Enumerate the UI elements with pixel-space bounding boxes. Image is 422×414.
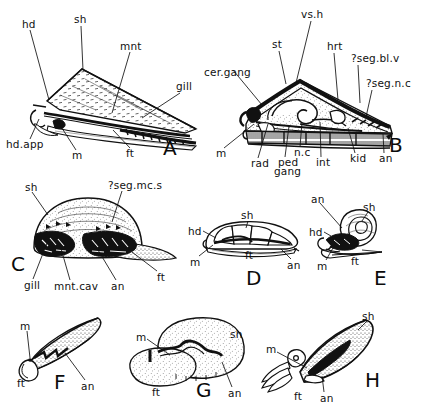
- label-d-m: m: [190, 257, 200, 268]
- label-e-m: m: [317, 261, 327, 272]
- panel-b-drawing: [240, 80, 393, 148]
- label-d-ft: ft: [245, 250, 253, 261]
- panel-letter-g: G: [196, 378, 212, 402]
- label-f-an: an: [81, 381, 95, 392]
- label-b-hrt: hrt: [327, 41, 343, 52]
- label-a-mnt: mnt: [120, 41, 142, 52]
- label-c-gill: gill: [24, 280, 40, 291]
- label-c-an: an: [111, 281, 125, 292]
- panel-g-drawing: [130, 318, 244, 386]
- label-d-hd: hd: [188, 226, 202, 237]
- label-c-sh: sh: [25, 182, 38, 193]
- label-b-seg-n-c: ?seg.n.c: [366, 78, 411, 89]
- label-b-seg-bl-v: ?seg.bl.v: [351, 53, 399, 64]
- label-d-sh: sh: [241, 210, 254, 221]
- figure-plate: hd sh mnt gill hd.app m ft A vs.h st hrt…: [0, 0, 422, 414]
- label-d-an: an: [287, 260, 301, 271]
- label-a-m: m: [72, 150, 82, 161]
- panel-letter-b: B: [389, 133, 403, 157]
- label-f-ft: ft: [17, 378, 25, 389]
- label-h-sh: sh: [362, 311, 375, 322]
- label-b-kid: kid: [350, 153, 366, 164]
- label-e-ft: ft: [351, 256, 359, 267]
- label-c-ft: ft: [157, 272, 165, 283]
- label-h-m: m: [266, 344, 276, 355]
- panel-c-drawing: [34, 198, 176, 260]
- label-g-ft: ft: [152, 387, 160, 398]
- label-a-hd: hd: [22, 19, 36, 30]
- panel-e-drawing: [318, 210, 382, 258]
- label-b-int: int: [316, 157, 330, 168]
- label-c-mnt-cav: mnt.cav: [54, 281, 98, 292]
- label-f-m: m: [20, 321, 30, 332]
- label-a-sh: sh: [74, 14, 87, 25]
- label-e-an: an: [311, 194, 325, 205]
- label-b-gang: gang: [274, 166, 301, 177]
- label-b-rad: rad: [251, 158, 269, 169]
- panel-letter-h: H: [365, 368, 380, 392]
- label-a-hd-app: hd.app: [6, 139, 44, 150]
- panel-h-drawing: [262, 320, 373, 392]
- label-h-ft: ft: [294, 391, 302, 402]
- label-a-gill: gill: [176, 81, 192, 92]
- label-h-an: an: [320, 393, 334, 404]
- panel-letter-f: F: [54, 370, 66, 394]
- panel-letter-d: D: [246, 266, 261, 290]
- label-b-m: m: [216, 148, 226, 159]
- label-e-hd: hd: [309, 227, 323, 238]
- label-b-vs-h: vs.h: [301, 9, 323, 20]
- label-c-seg-mc-s: ?seg.mc.s: [108, 180, 162, 191]
- label-b-n-c: n.c: [294, 147, 310, 158]
- label-b-st: st: [272, 39, 282, 50]
- label-g-sh: sh: [230, 329, 243, 340]
- label-a-ft: ft: [126, 148, 134, 159]
- panel-letter-e: E: [374, 266, 387, 290]
- label-g-m: m: [136, 332, 146, 343]
- panel-letter-a: A: [163, 136, 177, 160]
- label-b-cer-gang: cer.gang: [204, 67, 251, 78]
- panel-letter-c: C: [11, 252, 25, 276]
- label-e-sh: sh: [363, 202, 376, 213]
- label-g-an: an: [228, 388, 242, 399]
